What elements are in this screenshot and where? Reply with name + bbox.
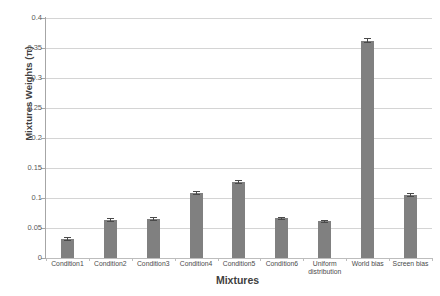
error-bar <box>367 38 368 43</box>
bar-slot <box>303 18 346 258</box>
gridline <box>46 258 432 259</box>
error-bar <box>281 217 282 221</box>
bar-slot <box>46 18 89 258</box>
bar-slot <box>132 18 175 258</box>
bar <box>232 182 245 258</box>
error-bar <box>410 193 411 197</box>
bar-slot <box>346 18 389 258</box>
x-axis-category-label: Condition3 <box>132 260 175 268</box>
x-axis-category-label: Condition4 <box>175 260 218 268</box>
x-axis-title: Mixtures <box>40 274 435 286</box>
y-axis-tick-label: 0.15 <box>6 164 42 172</box>
y-axis-title: Mixtures Weights (π) <box>23 14 34 174</box>
y-axis-tick-label: 0.2 <box>6 134 42 142</box>
bar <box>275 218 288 258</box>
bar-slot <box>260 18 303 258</box>
error-bar <box>324 220 325 224</box>
x-axis-category-label: World bias <box>346 260 389 268</box>
y-axis-tick-label: 0.1 <box>6 194 42 202</box>
bar <box>361 41 374 258</box>
error-bar <box>196 191 197 195</box>
x-axis-category-label: Condition2 <box>89 260 132 268</box>
y-axis-tick-label: 0.4 <box>6 14 42 22</box>
bar-slot <box>218 18 261 258</box>
bar-chart: Mixtures Weights (π) 00.050.10.150.20.25… <box>0 0 440 296</box>
bar-slot <box>89 18 132 258</box>
bar-slot <box>175 18 218 258</box>
error-bar <box>110 218 111 222</box>
error-bar <box>238 180 239 184</box>
error-bar <box>153 217 154 221</box>
bar <box>104 220 117 258</box>
bar <box>147 219 160 258</box>
y-axis-tick-label: 0 <box>6 254 42 262</box>
x-axis-category-label: Screen bias <box>389 260 432 268</box>
x-axis-tick <box>432 258 433 261</box>
x-axis-category-label: Condition6 <box>260 260 303 268</box>
y-axis-tick-label: 0.25 <box>6 104 42 112</box>
plot-area <box>46 18 432 258</box>
y-axis-tick-label: 0.35 <box>6 44 42 52</box>
bar <box>318 221 331 258</box>
x-axis-category-label: Condition1 <box>46 260 89 268</box>
bar <box>61 239 74 258</box>
bar-slot <box>389 18 432 258</box>
x-axis-tick <box>46 258 47 261</box>
bar <box>190 193 203 258</box>
x-axis-category-label: Condition5 <box>218 260 261 268</box>
error-bar <box>67 237 68 241</box>
y-axis-tick-label: 0.05 <box>6 224 42 232</box>
bar <box>404 195 417 258</box>
y-axis-tick-label: 0.3 <box>6 74 42 82</box>
